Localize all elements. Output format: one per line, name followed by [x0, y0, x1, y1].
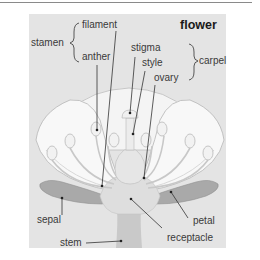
- label-filament: filament: [82, 20, 117, 30]
- label-style: style: [142, 58, 163, 68]
- label-carpel: carpel: [199, 56, 226, 66]
- label-anther: anther: [82, 52, 110, 62]
- carpel-brace: [189, 44, 198, 80]
- label-stem: stem: [60, 238, 82, 248]
- label-sepal: sepal: [37, 215, 61, 225]
- label-stamen: stamen: [31, 38, 64, 48]
- label-stigma: stigma: [131, 43, 160, 53]
- label-receptacle: receptacle: [167, 233, 213, 243]
- stem-shape: [116, 210, 142, 248]
- stamen-brace: [70, 23, 79, 62]
- ovary-shape: [115, 150, 145, 184]
- diagram-title: flower: [180, 19, 217, 32]
- label-petal: petal: [193, 216, 215, 226]
- label-ovary: ovary: [154, 73, 178, 83]
